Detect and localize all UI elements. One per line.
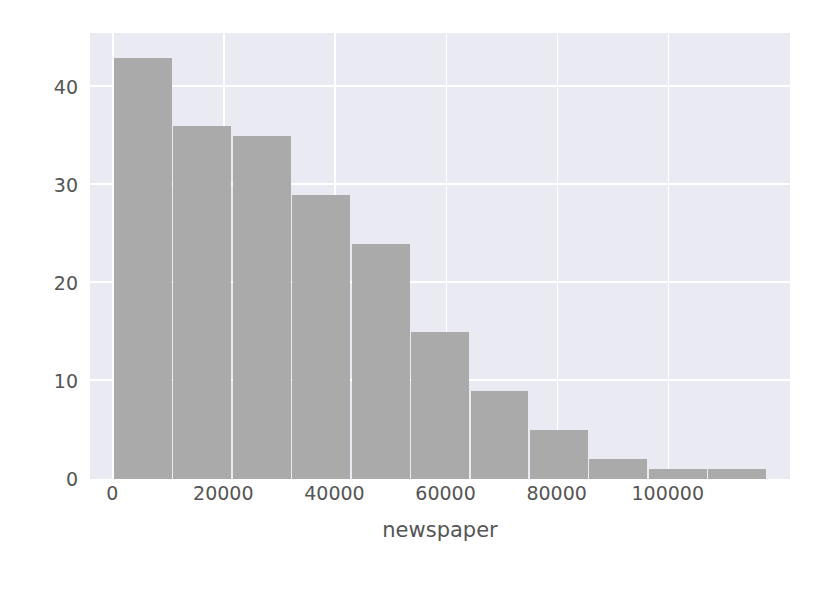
histogram-bar: [173, 126, 231, 479]
x-tick-label: 60000: [415, 484, 475, 503]
histogram-bar: [471, 391, 529, 479]
y-axis-tick-labels: 010203040: [0, 33, 78, 479]
x-tick-label: 80000: [526, 484, 586, 503]
histogram-bar: [530, 430, 588, 479]
histogram-bar: [292, 195, 350, 479]
y-tick-label: 30: [54, 175, 78, 194]
x-tick-label: 0: [106, 484, 118, 503]
plot-area: [90, 33, 790, 479]
histogram-bar: [352, 244, 410, 479]
histogram-bar: [114, 58, 172, 479]
y-tick-label: 10: [54, 371, 78, 390]
y-tick-label: 40: [54, 77, 78, 96]
histogram-bar: [411, 332, 469, 479]
x-axis-tick-labels: 020000400006000080000100000: [90, 484, 790, 514]
histogram-bar: [649, 469, 707, 479]
histogram-bars: [90, 33, 790, 479]
histogram-bar: [708, 469, 766, 479]
histogram-figure: 010203040 020000400006000080000100000 ne…: [0, 0, 824, 591]
x-axis-label: newspaper: [90, 520, 790, 541]
y-tick-label: 0: [66, 470, 78, 489]
x-tick-label: 100000: [632, 484, 705, 503]
x-tick-label: 40000: [304, 484, 364, 503]
histogram-bar: [589, 459, 647, 479]
histogram-bar: [233, 136, 291, 479]
x-tick-label: 20000: [193, 484, 253, 503]
y-tick-label: 20: [54, 273, 78, 292]
